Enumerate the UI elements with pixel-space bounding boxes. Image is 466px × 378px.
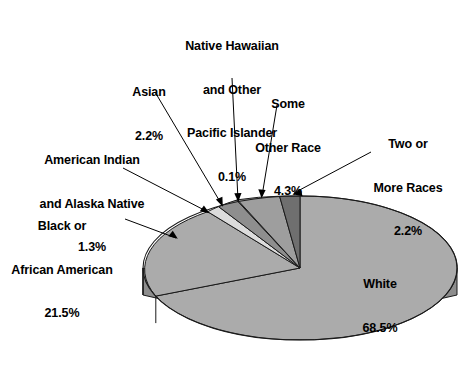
label-black-value: 21.5%	[0, 306, 124, 321]
label-native-hawaiian-line1: Native Hawaiian	[168, 39, 296, 54]
label-two-or-more-races: Two or More Races 2.2%	[356, 108, 460, 268]
label-white-value: 68.5%	[338, 321, 422, 336]
label-white: White 68.5%	[338, 248, 422, 364]
label-black-line1: Black or	[0, 219, 124, 234]
label-asian-line1: Asian	[114, 85, 184, 100]
label-black-or-african-american: Black or African American 21.5%	[0, 190, 124, 350]
label-two-or-more-races-value: 2.2%	[356, 224, 460, 239]
label-some-other-race-line2: Other Race	[240, 141, 336, 156]
label-white-line1: White	[338, 277, 422, 292]
label-two-or-more-races-line1: Two or	[356, 137, 460, 152]
label-two-or-more-races-line2: More Races	[356, 181, 460, 196]
label-some-other-race-line1: Some	[240, 97, 336, 112]
label-some-other-race-value: 4.3%	[240, 184, 336, 199]
label-american-indian-line1: American Indian	[22, 153, 162, 168]
label-some-other-race: Some Other Race 4.3%	[240, 68, 336, 228]
pie-chart-figure: Native Hawaiian and Other Pacific Island…	[0, 0, 466, 378]
label-black-line2: African American	[0, 263, 124, 278]
